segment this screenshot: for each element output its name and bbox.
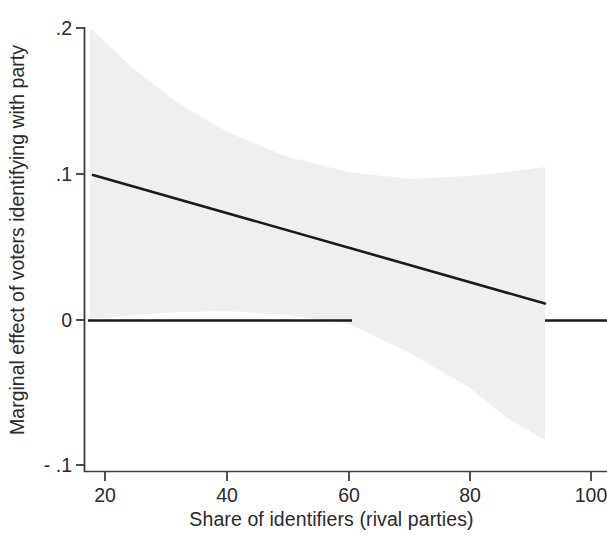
chart-figure: .2 .1 0 - .1 20 40 60 80 100 Marginal ef… <box>0 0 607 542</box>
x-tick-label-60: 60 <box>338 484 360 507</box>
x-tick-label-80: 80 <box>459 484 481 507</box>
x-axis-title: Share of identifiers (rival parties) <box>0 508 607 531</box>
plot-area <box>0 0 607 542</box>
x-axis-ticks <box>105 472 591 481</box>
y-axis-ticks <box>76 28 84 465</box>
y-tick-label-0.1: .1 <box>34 163 72 186</box>
y-tick-label-0: 0 <box>34 309 72 332</box>
x-tick-label-20: 20 <box>94 484 116 507</box>
y-axis-title: Marginal effect of voters identifying wi… <box>6 45 29 435</box>
y-axis-title-wrap: Marginal effect of voters identifying wi… <box>0 0 34 480</box>
x-tick-label-100: 100 <box>575 484 607 507</box>
confidence-band <box>90 28 545 440</box>
x-tick-label-40: 40 <box>216 484 238 507</box>
y-tick-label-0.2: .2 <box>34 17 72 40</box>
